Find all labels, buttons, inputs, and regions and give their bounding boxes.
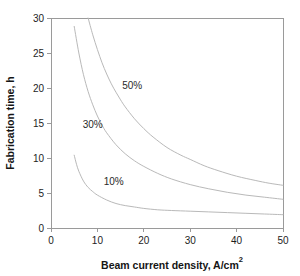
- x-tick-label: 0: [48, 235, 54, 246]
- series-label-10pct: 10%: [104, 176, 124, 187]
- series-curve-30pct: [74, 26, 283, 199]
- x-axis-title-superscript: 2: [239, 255, 243, 264]
- y-tick-label: 10: [33, 153, 45, 164]
- fabrication-time-chart: 051015202530 01020304050 50%30%10% Beam …: [0, 0, 300, 276]
- y-tick-label: 20: [33, 83, 45, 94]
- y-tick-label: 25: [33, 48, 45, 59]
- y-tick-label: 15: [33, 118, 45, 129]
- x-axis-ticks: [51, 228, 283, 232]
- y-axis-title: Fabrication time, h: [4, 76, 16, 169]
- x-axis-title: Beam current density, A/cm2: [101, 255, 243, 272]
- x-tick-label: 50: [277, 235, 289, 246]
- x-tick-label: 10: [92, 235, 104, 246]
- y-axis-ticks: [47, 18, 51, 228]
- x-tick-label: 30: [185, 235, 197, 246]
- y-tick-label: 0: [38, 223, 44, 234]
- x-axis-tick-labels: 01020304050: [48, 235, 289, 246]
- x-tick-label: 40: [231, 235, 243, 246]
- series-label-50pct: 50%: [122, 80, 142, 91]
- y-tick-label: 5: [38, 188, 44, 199]
- series-curve-50pct: [88, 18, 283, 185]
- y-axis-tick-labels: 051015202530: [33, 13, 45, 234]
- y-tick-label: 30: [33, 13, 45, 24]
- x-tick-label: 20: [138, 235, 150, 246]
- x-axis-title-base: Beam current density, A/cm: [101, 259, 239, 271]
- series-label-30pct: 30%: [83, 119, 103, 130]
- chart-container: 051015202530 01020304050 50%30%10% Beam …: [0, 0, 300, 276]
- series-annotations: 50%30%10%: [83, 80, 143, 188]
